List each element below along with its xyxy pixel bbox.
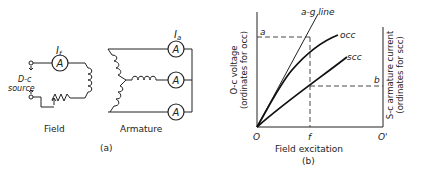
field-ammeter-symbol: A <box>56 58 64 69</box>
scc-curve <box>257 57 347 127</box>
source-terminal-bottom <box>29 95 33 99</box>
ag-line-label: a-g line <box>301 7 335 17</box>
occ-label: occ <box>340 30 355 40</box>
characteristics-graph <box>257 12 383 127</box>
ammeter-symbol: A <box>172 75 180 86</box>
field-circuit: A <box>29 55 92 107</box>
point-b-label: b <box>374 75 380 85</box>
point-a-label: a <box>260 27 266 37</box>
caption-a: (a) <box>100 143 113 153</box>
left-y-label: O-c voltage (ordinates for occ) <box>229 31 249 109</box>
left-y-label-line2: (ordinates for occ) <box>239 31 249 109</box>
right-y-label-line1: S-c armature current <box>385 30 395 119</box>
ammeter-symbol: A <box>172 44 180 55</box>
point-f-label: f <box>308 132 313 142</box>
field-caption: Field <box>44 124 65 134</box>
source-terminal-top <box>29 61 33 65</box>
right-y-label-line2: (ordinates for scc) <box>395 36 405 113</box>
armature-winding-2-icon <box>110 80 126 112</box>
source-label-line2: source <box>8 84 35 93</box>
source-label-line1: D-c <box>18 75 32 84</box>
diagram-canvas: A If D-c source Field A A A <box>0 0 421 171</box>
origin-prime-label: O' <box>378 132 388 142</box>
field-coil-icon <box>85 63 92 98</box>
scc-label: scc <box>347 52 362 62</box>
left-y-label-line1: O-c voltage <box>229 45 239 94</box>
x-axis-label: Field excitation <box>275 144 343 154</box>
armature-current-label: Ia <box>174 29 181 42</box>
armature-circuit: A A A <box>108 41 192 120</box>
caption-b: (b) <box>302 156 315 166</box>
right-y-label: S-c armature current (ordinates for scc) <box>385 30 405 119</box>
ammeter-symbol: A <box>172 107 180 118</box>
terminal-arrow-icon <box>29 66 33 70</box>
occ-curve <box>257 35 338 127</box>
origin-label: O <box>253 132 260 142</box>
armature-winding-1-icon <box>108 49 126 80</box>
armature-winding-3-icon <box>126 76 160 80</box>
armature-caption: Armature <box>120 124 163 134</box>
